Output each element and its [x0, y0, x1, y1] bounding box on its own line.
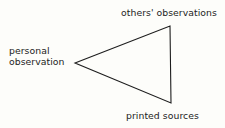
label-personal-observation-line2: observation	[9, 56, 65, 67]
label-personal-observation-line1: personal	[9, 45, 50, 56]
label-others-observations: others' observations	[121, 7, 217, 18]
label-others-observations-text: others' observations	[121, 7, 217, 18]
label-printed-sources: printed sources	[126, 110, 199, 121]
triangle-outline	[75, 26, 171, 103]
label-printed-sources-text: printed sources	[126, 110, 199, 121]
diagram-canvas: others' observations personal observatio…	[0, 0, 225, 128]
label-personal-observation: personal observation	[9, 45, 73, 68]
